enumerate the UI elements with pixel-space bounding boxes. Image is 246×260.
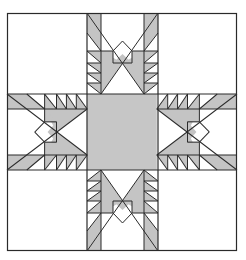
left-point-unit: [7, 94, 87, 170]
quilt-block: [0, 0, 246, 260]
bottom-point-unit: [87, 170, 158, 251]
center-square: [87, 94, 158, 170]
right-point-unit: [157, 94, 237, 170]
top-point-unit: [87, 13, 158, 94]
